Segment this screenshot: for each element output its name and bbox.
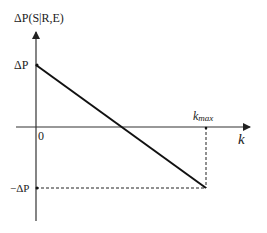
bottom-tick-dot [36,187,39,190]
kmax-tick-dot [205,127,208,130]
bottom-tick-label: −ΔP [10,182,29,194]
diagram-canvas: ΔP(S|R,E) ΔP −ΔP 0 k kmax [0,0,267,233]
top-tick-dot [36,64,39,67]
kmax-label: kmax [193,109,213,123]
y-axis-label: ΔP(S|R,E) [14,11,64,25]
x-axis-label: k [238,131,245,147]
origin-label: 0 [38,129,44,143]
top-tick-label: ΔP [14,58,29,72]
